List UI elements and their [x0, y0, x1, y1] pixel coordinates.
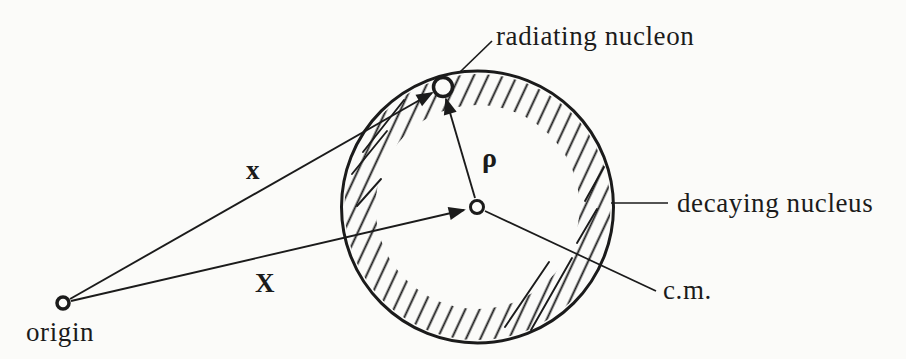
vector-X-label: X — [255, 268, 275, 298]
vector-x-label: x — [246, 155, 260, 185]
diagram-svg: radiating nucleon decaying nucleus c.m. … — [0, 0, 906, 359]
radiating-nucleon-leader-line — [460, 41, 492, 72]
radiating-nucleon-label: radiating nucleon — [496, 21, 694, 51]
cm-label: c.m. — [663, 275, 712, 305]
decaying-nucleus-label: decaying nucleus — [677, 188, 873, 218]
radiating-nucleon-marker — [434, 78, 453, 97]
vector-rho-label: ρ — [482, 142, 498, 173]
cm-marker — [471, 201, 484, 214]
origin-label: origin — [26, 317, 94, 347]
physics-diagram-canvas: radiating nucleon decaying nucleus c.m. … — [0, 0, 906, 359]
origin-marker — [57, 297, 69, 309]
